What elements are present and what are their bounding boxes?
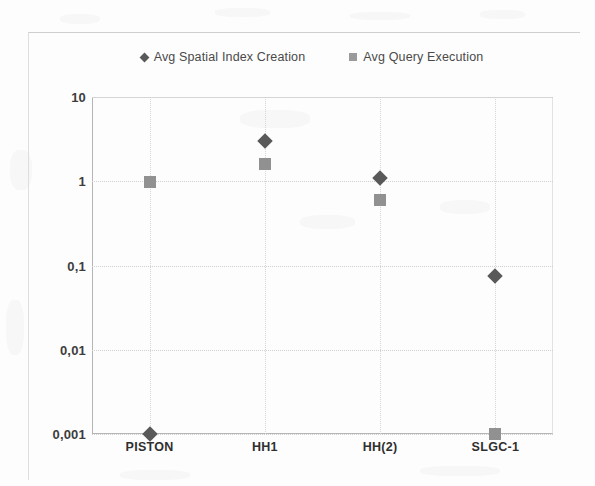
x-axis-tick-label: PISTON bbox=[126, 440, 174, 454]
y-axis-tick-label: 0,001 bbox=[0, 427, 86, 442]
x-axis-labels: PISTONHH1HH(2)SLGC-1 bbox=[92, 440, 553, 464]
data-point-marker[interactable] bbox=[144, 176, 156, 188]
gridline-vertical bbox=[150, 97, 151, 434]
y-axis-labels: 1010,10,010,001 bbox=[0, 97, 86, 434]
x-axis-tick-label: HH(2) bbox=[363, 440, 398, 454]
gridline-vertical bbox=[380, 97, 381, 434]
data-point-marker[interactable] bbox=[374, 194, 386, 206]
data-point-marker[interactable] bbox=[489, 428, 501, 440]
legend-item-avg-spatial-index-creation[interactable]: Avg Spatial Index Creation bbox=[141, 50, 306, 64]
diamond-marker-icon bbox=[139, 52, 149, 62]
plot-wrapper bbox=[92, 97, 553, 434]
legend-item-avg-query-execution[interactable]: Avg Query Execution bbox=[349, 50, 483, 64]
square-marker-icon bbox=[349, 53, 357, 61]
gridline-horizontal bbox=[92, 181, 553, 182]
y-axis-tick-label: 0,01 bbox=[0, 342, 86, 357]
legend-label: Avg Spatial Index Creation bbox=[154, 50, 306, 64]
gridline-horizontal bbox=[92, 350, 553, 351]
gridline-horizontal bbox=[92, 266, 553, 267]
legend-label: Avg Query Execution bbox=[363, 50, 483, 64]
y-axis-tick-label: 10 bbox=[0, 90, 86, 105]
data-point-marker[interactable] bbox=[259, 158, 271, 170]
x-axis-tick-label: SLGC-1 bbox=[472, 440, 520, 454]
x-axis-tick-label: HH1 bbox=[252, 440, 278, 454]
gridline-horizontal bbox=[92, 434, 553, 435]
y-axis-tick-label: 0,1 bbox=[0, 258, 86, 273]
gridline-vertical bbox=[495, 97, 496, 434]
chart-legend: Avg Spatial Index Creation Avg Query Exe… bbox=[92, 44, 532, 70]
y-axis-tick-label: 1 bbox=[0, 174, 86, 189]
gridline-horizontal bbox=[92, 97, 553, 98]
